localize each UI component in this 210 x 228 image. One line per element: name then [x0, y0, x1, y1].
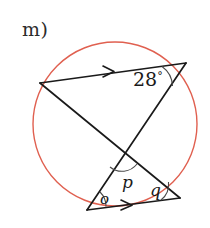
parallel-arrow-top-icon [103, 66, 114, 77]
angle-label-q: q [150, 180, 161, 200]
angle-label-28: 28° [133, 68, 163, 90]
segment-top-chord [40, 63, 186, 83]
degree-symbol-icon: ° [157, 70, 163, 83]
angle-label-p: p [122, 172, 133, 192]
angle-value-28: 28 [133, 68, 157, 90]
angle-label-o: o [100, 190, 109, 208]
geometry-figure-page: m) 28° o p q [0, 0, 210, 228]
angle-arc-28 [162, 67, 173, 87]
circle-outline [33, 42, 197, 206]
